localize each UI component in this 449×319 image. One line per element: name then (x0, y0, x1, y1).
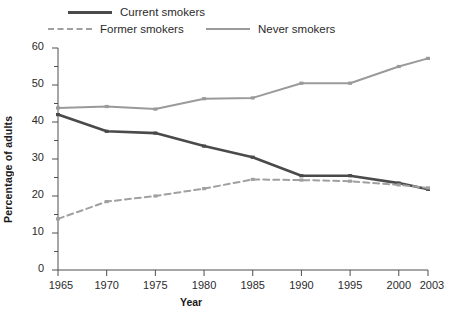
data-point-marker (426, 186, 430, 189)
data-point-marker (251, 96, 255, 99)
axis-lines (58, 48, 428, 270)
data-point-marker (397, 65, 401, 68)
data-point-marker (397, 183, 401, 186)
data-point-marker (299, 179, 303, 182)
data-point-marker (56, 113, 60, 116)
data-point-marker (251, 156, 255, 159)
data-point-marker (105, 200, 109, 203)
data-point-marker (299, 82, 303, 85)
data-point-marker (426, 57, 430, 60)
data-point-marker (299, 174, 303, 177)
data-point-marker (251, 178, 255, 181)
data-point-marker (105, 130, 109, 133)
series-line-former-smokers (58, 179, 428, 219)
data-point-marker (202, 145, 206, 148)
series-line-current-smokers (58, 115, 428, 190)
data-point-marker (153, 108, 157, 111)
data-series-layer (56, 57, 430, 221)
data-point-marker (56, 106, 60, 109)
data-point-marker (153, 194, 157, 197)
data-point-marker (153, 132, 157, 135)
axis-tick-marks (52, 48, 428, 276)
data-point-marker (348, 82, 352, 85)
data-point-marker (56, 217, 60, 220)
data-point-marker (348, 180, 352, 183)
data-point-marker (202, 97, 206, 100)
data-point-marker (105, 105, 109, 108)
data-point-marker (348, 174, 352, 177)
series-line-never-smokers (58, 58, 428, 109)
data-point-marker (202, 187, 206, 190)
